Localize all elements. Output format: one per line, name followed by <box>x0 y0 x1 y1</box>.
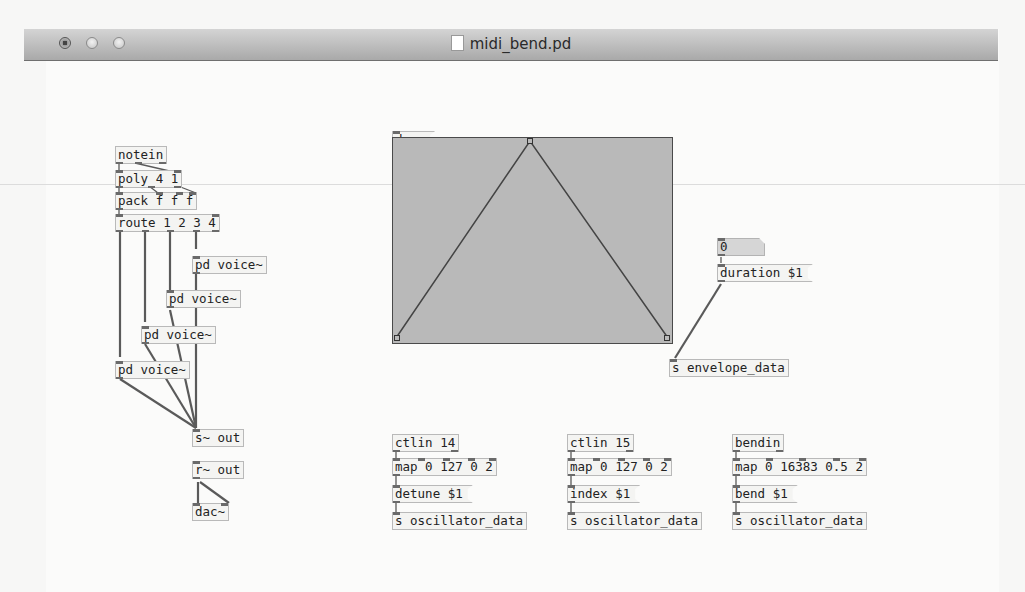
voice-object-4[interactable]: pd voice~ <box>192 256 267 274</box>
send-oscillator-object-2[interactable]: s oscillator_data <box>567 512 702 530</box>
voice-object-3[interactable]: pd voice~ <box>166 290 241 308</box>
breakpoint-handle[interactable] <box>664 335 670 341</box>
number-box[interactable]: 0 <box>717 238 765 256</box>
voice-object-1[interactable]: pd voice~ <box>115 361 190 379</box>
ctlin-14-object[interactable]: ctlin 14 <box>392 434 459 452</box>
dac-object[interactable]: dac~ <box>192 503 229 521</box>
bendin-object[interactable]: bendin <box>732 434 784 452</box>
breakpoint-handle[interactable] <box>527 138 533 144</box>
patch-canvas[interactable]: notein poly 4 1 pack f f f route 1 2 3 4… <box>0 0 1025 592</box>
notein-object[interactable]: notein <box>115 146 167 164</box>
pack-object[interactable]: pack f f f <box>115 192 197 210</box>
send-audio-out-object[interactable]: s~ out <box>192 429 244 447</box>
map-object-1[interactable]: map 0 127 0 2 <box>392 458 497 476</box>
route-object[interactable]: route 1 2 3 4 <box>115 214 220 232</box>
receive-audio-out-object[interactable]: r~ out <box>192 461 244 479</box>
duration-message[interactable]: duration $1 <box>717 264 813 282</box>
bend-message[interactable]: bend $1 <box>732 485 798 503</box>
map-object-3[interactable]: map 0 16383 0.5 2 <box>732 458 867 476</box>
index-message[interactable]: index $1 <box>567 485 640 503</box>
voice-object-2[interactable]: pd voice~ <box>141 326 216 344</box>
poly-object[interactable]: poly 4 1 <box>115 170 182 188</box>
send-envelope-object[interactable]: s envelope_data <box>669 359 789 377</box>
detune-message[interactable]: detune $1 <box>392 485 473 503</box>
send-oscillator-object-1[interactable]: s oscillator_data <box>392 512 527 530</box>
map-object-2[interactable]: map 0 127 0 2 <box>567 458 672 476</box>
envelope-curve <box>393 138 671 342</box>
breakpoint-handle[interactable] <box>394 335 400 341</box>
send-oscillator-object-3[interactable]: s oscillator_data <box>732 512 867 530</box>
envelope-graph[interactable] <box>392 137 673 344</box>
ctlin-15-object[interactable]: ctlin 15 <box>567 434 634 452</box>
